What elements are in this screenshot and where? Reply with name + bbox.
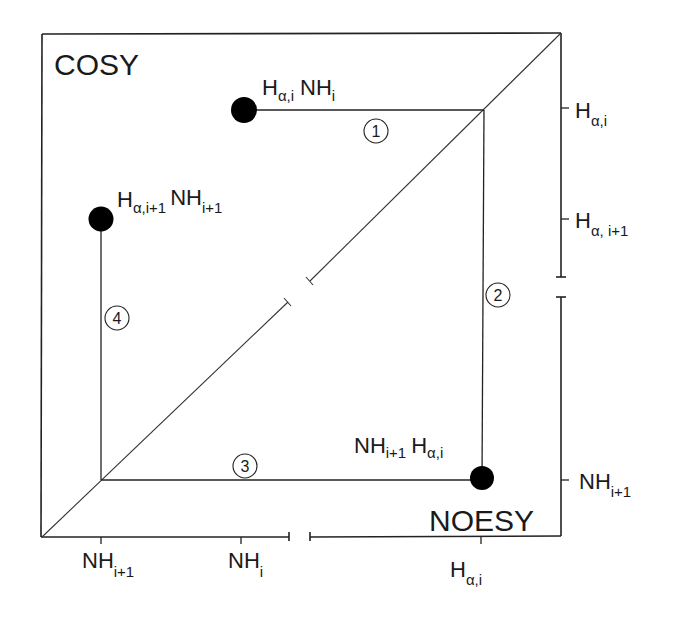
label-sub2: α,i (427, 444, 443, 461)
step-marker-4-label: 4 (113, 310, 122, 327)
step-marker-1-label: 1 (372, 123, 381, 140)
label-main: NH (579, 469, 611, 494)
label-main: NH (82, 548, 114, 573)
label-main: NH (228, 548, 260, 573)
label-sub: i+1 (611, 483, 631, 500)
label-sub2: i+1 (202, 199, 222, 216)
label-sub: i (260, 563, 263, 580)
right-axis-label-alpha-i: Hα,i (575, 98, 607, 129)
cross-peak-alpha-i-nh-i (231, 97, 257, 123)
path-step-2-line (482, 110, 484, 478)
bottom-axis-label-nh-i: NHi (228, 548, 263, 580)
right-axis-label-alpha-i1: Hα, i+1 (575, 208, 628, 239)
axis-ticks (101, 108, 569, 544)
cross-peak-label-alpha-i1-nh-i1: Hα,i+1NHi+1 (117, 185, 222, 216)
label-main: H (575, 208, 591, 233)
label-main: NH (354, 433, 386, 458)
diagonal-lower-segment (42, 302, 288, 537)
label-sub: i+1 (386, 444, 406, 461)
cross-peak-alpha-i1-nh-i1 (89, 207, 114, 232)
plot-frame (41, 33, 566, 541)
cosy-region-label: COSY (54, 48, 139, 81)
label-main: H (117, 187, 133, 212)
label-main2: H (411, 433, 427, 458)
label-sub: α,i (278, 87, 294, 104)
cross-peak-label-nh-i1-alpha-i: NHi+1Hα,i (354, 433, 443, 461)
step-marker-3-label: 3 (241, 458, 250, 475)
cosy-noesy-diagram: 1 2 3 4 COSY NOESY Hα,iNHi Hα,i+1NHi+1 N… (0, 0, 674, 617)
label-sub: α,i (591, 112, 607, 129)
bottom-axis-label-alpha-i: Hα,i (450, 557, 482, 588)
diagonal-break-cap-upper (306, 277, 313, 285)
label-sub: α,i (466, 571, 482, 588)
cross-peak-nh-i1-alpha-i (470, 466, 494, 490)
label-sub: α, i+1 (591, 222, 628, 239)
label-sub: α,i+1 (133, 199, 166, 216)
label-sub2: i (332, 87, 335, 104)
label-main2: NH (300, 75, 332, 100)
frame-left (41, 34, 42, 537)
noesy-region-label: NOESY (429, 504, 534, 537)
label-main: H (450, 557, 466, 582)
right-axis-label-nh-i1: NHi+1 (579, 469, 631, 500)
bottom-axis-label-nh-i1: NHi+1 (82, 548, 134, 580)
step-markers (105, 119, 510, 478)
diagonal-upper-segment (310, 33, 561, 281)
frame-top (42, 33, 561, 34)
cross-peak-label-alpha-i-nh-i: Hα,iNHi (262, 75, 335, 104)
label-main: H (262, 75, 278, 100)
label-main: H (575, 98, 591, 123)
label-sub: i+1 (114, 563, 134, 580)
label-main2: NH (170, 185, 202, 210)
step-marker-2-label: 2 (494, 287, 503, 304)
